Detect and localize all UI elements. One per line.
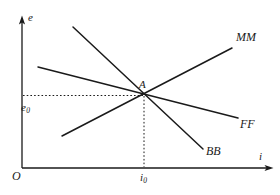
curve-ff-line[interactable] [38,67,238,118]
curve-label-bb: BB [206,145,221,157]
equilibrium-point-label: A [139,79,146,90]
curve-mm-line[interactable] [62,48,232,136]
x-tick-label-i0: i0 [140,172,147,183]
equilibrium-guides [23,96,144,168]
curve-label-ff: FF [240,118,255,130]
curve-label-mm: MM [236,31,256,43]
curves-group [38,27,238,149]
origin-label: O [12,170,21,182]
y-tick-sub: 0 [26,106,30,115]
curve-bb-line[interactable] [73,27,203,149]
y-axis-label: e [28,12,33,23]
diagram-canvas: e i O A e0 i0 MM FF BB [0,0,280,195]
x-axis-label: i [259,151,262,162]
x-tick-sub: 0 [143,176,147,185]
y-tick-label-e0: e0 [21,102,30,113]
